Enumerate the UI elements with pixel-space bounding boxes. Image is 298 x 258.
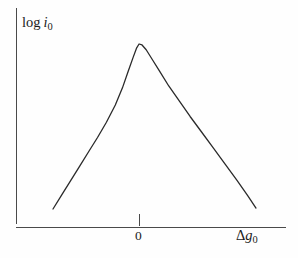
- y-axis-label-prefix: log: [22, 14, 41, 30]
- y-axis-label: logi0: [22, 15, 53, 32]
- x-axis-label: Δg0: [236, 228, 258, 245]
- y-axis-label-subscript: 0: [48, 21, 53, 32]
- x-axis-label-delta: Δ: [236, 227, 245, 243]
- figure-container: logi0 Δg0 0: [0, 0, 298, 258]
- volcano-curve: [53, 44, 256, 209]
- x-axis-label-symbol: g: [245, 227, 252, 243]
- x-tick-zero-label: 0: [135, 229, 142, 243]
- x-axis-label-subscript: 0: [253, 234, 258, 245]
- plot-canvas: [0, 0, 298, 258]
